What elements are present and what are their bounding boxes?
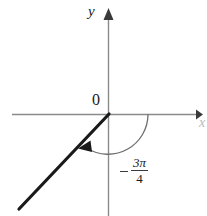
angle-numerator: 3π: [132, 156, 147, 170]
angle-diagram: [0, 0, 207, 216]
origin-label: 0: [92, 92, 100, 108]
y-axis-arrowhead: [104, 8, 114, 20]
angle-denominator: 4: [135, 171, 144, 185]
x-axis-label: x: [199, 116, 205, 130]
angle-fraction: 3π 4: [131, 156, 148, 185]
terminal-ray: [19, 114, 109, 209]
y-axis-label: y: [88, 4, 95, 19]
angle-minus-sign: [120, 171, 128, 172]
angle-label: 3π 4: [120, 156, 148, 185]
y-axis: [104, 8, 114, 216]
